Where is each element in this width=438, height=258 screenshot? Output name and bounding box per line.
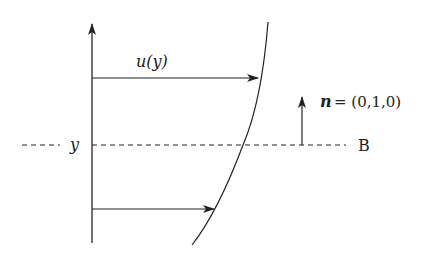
boundary-label: B bbox=[358, 136, 370, 155]
velocity-profile-diagram: u(y) y B n = (0,1,0) bbox=[0, 0, 438, 258]
velocity-label: u(y) bbox=[136, 52, 168, 71]
y-marker-label: y bbox=[69, 135, 80, 154]
velocity-profile-curve bbox=[192, 22, 268, 245]
normal-vector-value: = (0,1,0) bbox=[334, 93, 401, 111]
normal-vector-symbol: n bbox=[320, 92, 332, 111]
